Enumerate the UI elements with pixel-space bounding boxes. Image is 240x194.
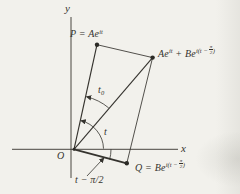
- sum-label-exponent1: it: [169, 47, 173, 54]
- sum-exp2-close: ): [213, 47, 215, 54]
- y-axis-label: y: [65, 3, 70, 14]
- vector-o-sum: [74, 58, 153, 150]
- q-label-base: Q = Be: [135, 162, 166, 173]
- q-exp-close: ): [183, 161, 185, 168]
- point-p-label: P = Aeit: [70, 29, 103, 39]
- q-fraction-denominator: 2: [179, 164, 183, 170]
- q-label-exponent: i(t − π2): [166, 161, 185, 168]
- phasor-diagram-svg: [0, 0, 240, 194]
- pi-over-2-fraction: π2: [209, 44, 213, 56]
- angle-t0-arc: [87, 97, 109, 108]
- sum-label-base1: Ae: [158, 48, 169, 59]
- t0-subscript: 0: [101, 89, 104, 96]
- q-exp-open: i(t −: [166, 161, 179, 168]
- angle-lag-arc: [110, 149, 111, 159]
- sum-label-base2: + Be: [173, 48, 196, 59]
- sum-point-label: Aeit + Bei(t − π2): [158, 46, 215, 59]
- angle-t-label: t: [104, 127, 107, 137]
- p-label-exponent: it: [99, 28, 103, 35]
- fraction-denominator: 2: [209, 50, 213, 56]
- pi-over-2-fraction-q: π2: [179, 158, 183, 170]
- origin-dot: [73, 148, 76, 151]
- point-p-dot: [95, 43, 99, 47]
- sum-exp2-open: i(t −: [196, 47, 209, 54]
- origin-label: O: [57, 151, 64, 161]
- sum-label-exponent2: i(t − π2): [196, 47, 215, 54]
- point-q-dot: [125, 161, 129, 165]
- angle-t-arc: [81, 121, 103, 149]
- angle-t0-label: t0: [98, 85, 104, 95]
- x-axis-label: x: [181, 143, 186, 154]
- point-sum-dot: [150, 55, 154, 59]
- vector-op: [74, 45, 97, 150]
- p-label-base: P = Ae: [70, 28, 99, 39]
- figure-canvas: y x O P = Aeit Aeit + Bei(t − π2) Q = Be…: [0, 0, 240, 194]
- point-q-label: Q = Bei(t − π2): [135, 160, 185, 173]
- angle-lag-label: t − π/2: [75, 175, 104, 185]
- edge-p-to-sum: [97, 45, 153, 58]
